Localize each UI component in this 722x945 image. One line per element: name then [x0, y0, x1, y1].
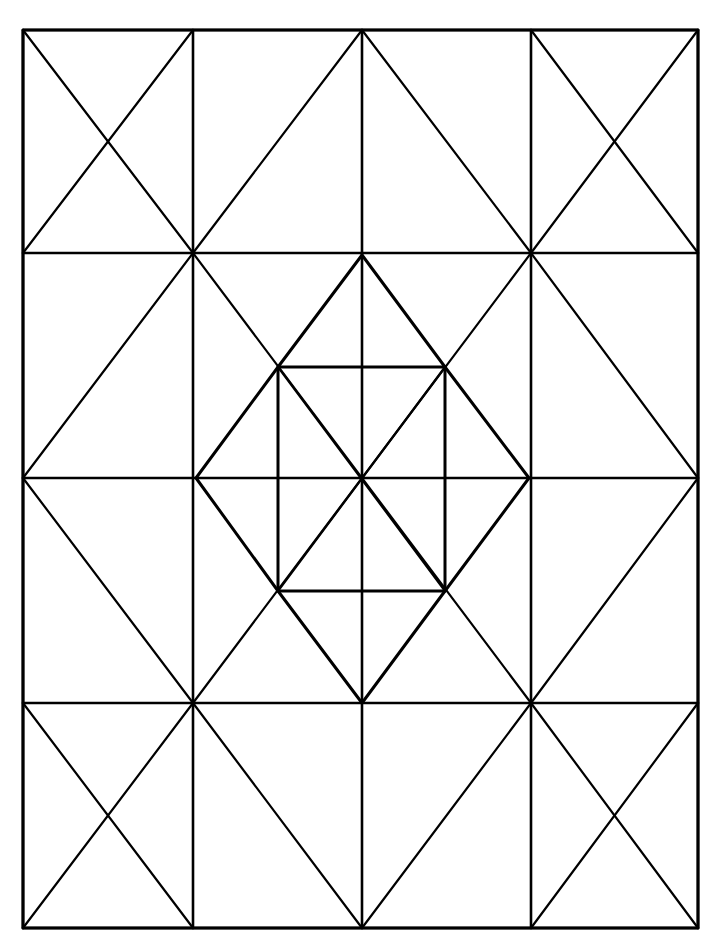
block-top-inner-right-diagonal-tl-br [362, 30, 531, 253]
block-lower-right-diagonal-bl-tr [531, 478, 698, 703]
block-bottom-inner-right-diagonal-bl-tr [362, 703, 531, 928]
block-lower-left-diagonal-tl-br [23, 478, 193, 703]
block-upper-right-diagonal-tl-br [531, 253, 698, 478]
block-top-inner-left-diagonal-bl-tr [193, 30, 362, 253]
quilt-pattern-drawing [0, 0, 722, 945]
block-bottom-inner-left-diagonal-tl-br [193, 703, 362, 928]
block-upper-left-diagonal-bl-tr [23, 253, 193, 478]
